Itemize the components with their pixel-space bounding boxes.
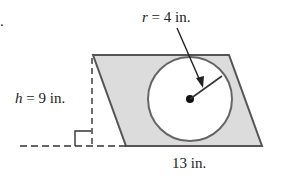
right-angle-marker (75, 131, 91, 146)
height-label: h = 9 in. (15, 90, 65, 106)
bullet-mark: . (0, 13, 4, 29)
base-label: 13 in. (172, 155, 206, 171)
height-value: = 9 in. (23, 90, 66, 106)
height-var: h (15, 90, 23, 106)
parallelogram-circle-diagram: . r = 4 in. h = 9 in. 13 in. (0, 0, 281, 179)
radius-value: = 4 in. (148, 9, 191, 25)
radius-label: r = 4 in. (142, 9, 190, 25)
